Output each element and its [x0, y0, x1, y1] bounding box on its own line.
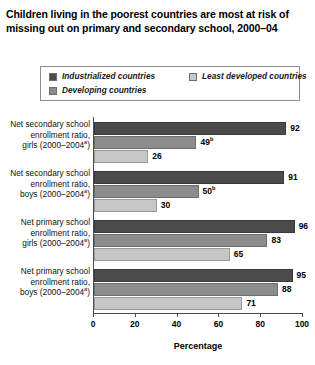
- bar-industrialized[interactable]: [94, 220, 295, 233]
- x-tick-label: 60: [214, 319, 223, 329]
- bar-least-developed[interactable]: [94, 297, 242, 310]
- bar-row: 30: [94, 199, 303, 212]
- category-axis-labels: Net secondary school enrollment ratio, g…: [0, 117, 90, 313]
- bar-row: 26: [94, 150, 303, 163]
- bar-developing[interactable]: [94, 234, 267, 247]
- bar-group-3: 95 88 71: [94, 269, 303, 311]
- legend-item-industrialized: Industrialized countries: [49, 72, 155, 81]
- chart-legend: Industrialized countries Least developed…: [40, 66, 300, 101]
- bar-value-developing: 88: [282, 284, 291, 295]
- bar-row: 83: [94, 234, 303, 247]
- x-axis-line: [93, 313, 303, 314]
- x-axis-title: Percentage: [93, 341, 303, 351]
- x-tick-label: 100: [295, 319, 309, 329]
- legend-swatch-industrialized: [49, 73, 57, 81]
- category-label-3: Net primary school enrollment ratio, boy…: [2, 266, 90, 298]
- bar-row: 96: [94, 220, 303, 233]
- legend-label-industrialized: Industrialized countries: [62, 72, 155, 81]
- x-tick-mark: [177, 313, 178, 317]
- legend-label-least-developed: Least developed countries: [202, 72, 307, 81]
- category-label-1: Net secondary school enrollment ratio, b…: [2, 168, 90, 200]
- bar-value-least-developed: 71: [246, 298, 255, 309]
- bar-group-1: 91 50b 30: [94, 171, 303, 213]
- legend-item-developing: Developing countries: [49, 86, 146, 95]
- bar-value-least-developed: 30: [161, 200, 170, 211]
- bar-row: 50b: [94, 185, 303, 198]
- x-tick-mark: [218, 313, 219, 317]
- bar-value-developing: 50b: [203, 186, 216, 197]
- category-label-2: Net primary school enrollment ratio, gir…: [2, 217, 90, 249]
- x-tick-label: 40: [172, 319, 181, 329]
- bar-row: 71: [94, 297, 303, 310]
- bar-group-0: 92 49b 26: [94, 122, 303, 164]
- chart-plot-area: 92 49b 26 91 50b 30 96 83: [93, 117, 303, 313]
- x-tick-mark: [135, 313, 136, 317]
- x-tick-mark: [260, 313, 261, 317]
- bar-industrialized[interactable]: [94, 171, 284, 184]
- legend-item-least-developed: Least developed countries: [189, 72, 307, 81]
- bar-row: 65: [94, 248, 303, 261]
- bar-industrialized[interactable]: [94, 269, 293, 282]
- bar-industrialized[interactable]: [94, 122, 286, 135]
- category-label-0: Net secondary school enrollment ratio, g…: [2, 119, 90, 151]
- x-tick-mark: [93, 313, 94, 317]
- x-tick-label: 80: [255, 319, 264, 329]
- bar-developing[interactable]: [94, 283, 278, 296]
- legend-label-developing: Developing countries: [62, 86, 146, 95]
- chart-title-line-1: Children living in the poorest countries…: [6, 8, 306, 22]
- bar-value-developing: 83: [271, 235, 280, 246]
- bar-least-developed[interactable]: [94, 248, 230, 261]
- bar-value-developing: 49b: [200, 137, 213, 148]
- bar-row: 91: [94, 171, 303, 184]
- bar-row: 95: [94, 269, 303, 282]
- bar-row: 88: [94, 283, 303, 296]
- x-tick-label: 20: [130, 319, 139, 329]
- legend-swatch-least-developed: [189, 73, 197, 81]
- bar-value-least-developed: 26: [152, 151, 161, 162]
- bar-row: 92: [94, 122, 303, 135]
- bar-group-2: 96 83 65: [94, 220, 303, 262]
- legend-swatch-developing: [49, 87, 57, 95]
- x-tick-mark: [302, 313, 303, 317]
- bar-row: 49b: [94, 136, 303, 149]
- chart-title-line-2: missing out on primary and secondary sch…: [6, 22, 306, 36]
- bar-least-developed[interactable]: [94, 199, 157, 212]
- bar-value-least-developed: 65: [234, 249, 243, 260]
- bar-value-industrialized: 95: [297, 270, 306, 281]
- chart-title: Children living in the poorest countries…: [6, 8, 306, 35]
- bar-value-industrialized: 92: [290, 123, 299, 134]
- bar-least-developed[interactable]: [94, 150, 148, 163]
- bar-developing[interactable]: [94, 136, 196, 149]
- bar-developing[interactable]: [94, 185, 199, 198]
- bar-value-industrialized: 96: [299, 221, 308, 232]
- x-tick-label: 0: [91, 319, 96, 329]
- bar-value-industrialized: 91: [288, 172, 297, 183]
